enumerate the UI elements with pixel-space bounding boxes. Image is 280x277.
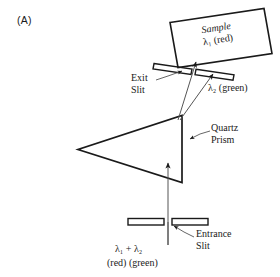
lambda2-label: λ₂ (green) [208, 82, 248, 94]
entrance-slit-label: Entrance Slit [196, 228, 232, 252]
lambda-sum-label: λ₁ + λ₂ [115, 243, 142, 255]
entrance-slit-right-bar [172, 219, 208, 226]
exit-slit-right-bar [195, 69, 234, 80]
exit-slit-label-line1: Exit [131, 72, 148, 84]
exit-slit-left-bar [153, 64, 192, 75]
exit-slit-label-line2: Slit [131, 84, 148, 96]
leader-entrance-slit [174, 226, 194, 237]
entrance-slit-label-line1: Entrance [196, 228, 232, 240]
quartz-prism-label: Quartz Prism [211, 122, 238, 146]
colors-label: (red) (green) [107, 257, 158, 269]
panel-tag: (A) [17, 14, 32, 26]
exit-slit-label: Exit Slit [131, 72, 148, 96]
entrance-slit-label-line2: Slit [196, 240, 232, 252]
quartz-prism [78, 116, 182, 183]
quartz-prism-label-line1: Quartz [211, 122, 238, 134]
entrance-slit-left-bar [128, 219, 164, 226]
leader-exit-slit [156, 71, 182, 80]
leader-quartz-prism [190, 131, 210, 139]
quartz-prism-label-line2: Prism [211, 134, 238, 146]
ray-red-lambda1 [178, 62, 196, 120]
